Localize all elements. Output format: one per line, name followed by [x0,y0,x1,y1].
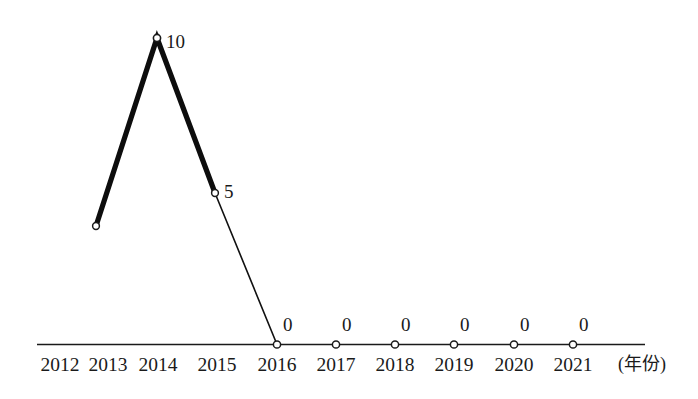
x-tick-label-2014: 2014 [139,354,178,375]
x-tick-label-2017: 2017 [317,354,356,375]
value-label-2019: 0 [460,314,470,335]
data-point-marker-2015 [212,190,219,197]
value-label-2014: 10 [166,31,185,52]
x-tick-label-2018: 2018 [376,354,415,375]
line-chart-figure: · ·· ·· ···· ·· ··· ···· ·· ··· ···· ···… [0,0,698,399]
value-label-2017: 0 [342,314,352,335]
series-line-thin [215,193,277,345]
data-point-marker-2014 [153,34,160,41]
value-label-2018: 0 [401,314,411,335]
value-label-2020: 0 [520,314,530,335]
value-label-2015: 5 [224,181,234,202]
x-tick-label-2015: 2015 [198,354,237,375]
x-tick-label-2013: 2013 [89,354,128,375]
data-point-marker-2020 [510,341,517,348]
data-point-marker-2021 [569,341,576,348]
x-tick-label-2012: 2012 [41,354,80,375]
series-line-thick [96,38,215,226]
data-point-marker-2016 [273,341,280,348]
x-tick-label-2019: 2019 [435,354,474,375]
x-tick-label-2021: 2021 [554,354,593,375]
cropped-text-bottom: ··· ···· ·· ···· [150,394,570,399]
data-point-marker-2017 [332,341,339,348]
x-axis-caption: (年份) [618,354,666,375]
data-point-marker-2013 [93,223,100,230]
data-point-marker-2018 [391,341,398,348]
chart-plot-area: 10 5 0 0 0 0 0 0 2012 2013 2014 2015 201… [0,0,698,399]
value-label-2021: 0 [579,314,589,335]
x-tick-label-2016: 2016 [258,354,297,375]
value-label-2016: 0 [283,314,293,335]
data-point-marker-2019 [450,341,457,348]
x-tick-label-2020: 2020 [495,354,534,375]
cropped-text-bottom-content: ··· ···· ·· ···· [330,394,391,399]
